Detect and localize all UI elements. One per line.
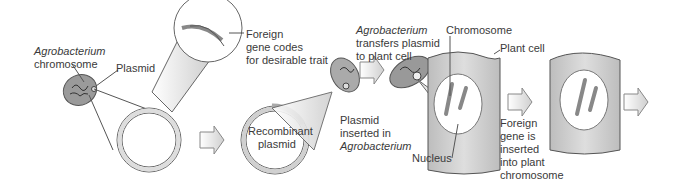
plant-cell-2 <box>550 53 620 154</box>
gene-magnifier <box>152 0 244 112</box>
label-inserted-2: inserted in <box>340 127 391 140</box>
diagram-canvas <box>0 0 688 196</box>
label-foreign-2: gene codes <box>246 41 303 54</box>
label-fg-5: chromosome <box>500 169 564 182</box>
label-inserted-1: Plasmid <box>340 114 379 127</box>
label-plant-cell: Plant cell <box>500 42 545 55</box>
label-transfer-1: Agrobacterium <box>356 24 428 37</box>
process-arrow-4 <box>624 88 648 116</box>
label-transfer-3: to plant cell <box>356 50 412 63</box>
label-recombinant-1: Recombinant <box>248 125 313 138</box>
label-plasmid: Plasmid <box>116 62 155 75</box>
label-fg-2: gene is <box>500 130 535 143</box>
process-arrow-3 <box>508 88 532 116</box>
plasmid-ring <box>117 108 181 172</box>
label-nucleus: Nucleus <box>412 152 452 165</box>
label-chromosome: Chromosome <box>446 24 512 37</box>
label-foreign-3: for desirable trait <box>246 54 328 67</box>
label-fg-4: into plant <box>500 156 545 169</box>
label-fg-3: inserted <box>500 143 539 156</box>
process-arrow-1 <box>200 126 224 154</box>
label-recombinant-2: plasmid <box>258 138 296 151</box>
label-inserted-3: Agrobacterium <box>340 140 412 153</box>
label-foreign-1: Foreign <box>246 28 283 41</box>
label-agro-chrom-2: chromosome <box>34 58 98 71</box>
label-agro-chrom-1: Agrobacterium <box>34 45 106 58</box>
label-fg-1: Foreign <box>500 117 537 130</box>
label-transfer-2: transfers plasmid <box>356 37 440 50</box>
